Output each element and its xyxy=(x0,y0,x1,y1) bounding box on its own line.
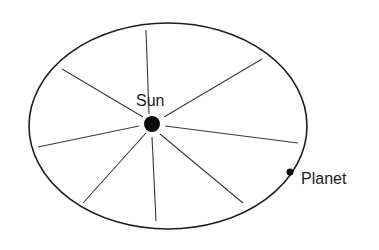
spoke-line xyxy=(83,133,146,203)
spoke-line xyxy=(38,126,139,147)
planet-icon xyxy=(287,169,294,176)
kepler-orbit-diagram: Sun Planet xyxy=(0,0,379,250)
area-spokes xyxy=(38,30,298,221)
sun-label: Sun xyxy=(136,92,164,109)
spoke-line xyxy=(160,134,243,203)
planet-label: Planet xyxy=(301,170,347,187)
sun-icon xyxy=(144,116,160,132)
spoke-line xyxy=(152,137,156,221)
spoke-line xyxy=(62,69,143,117)
spoke-line xyxy=(164,59,262,117)
spoke-line xyxy=(165,126,298,143)
